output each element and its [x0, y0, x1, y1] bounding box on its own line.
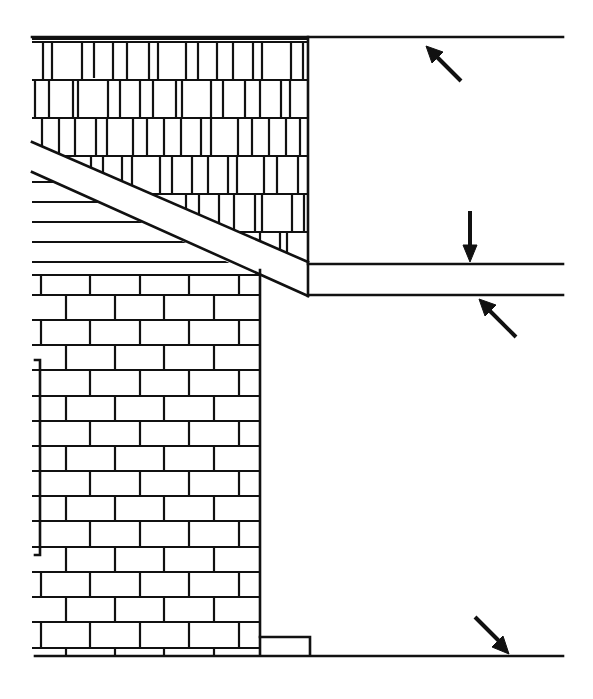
opening-jamb	[35, 360, 40, 555]
shingle-siding	[32, 39, 308, 262]
brick-veneer	[32, 270, 260, 655]
soffit	[308, 264, 563, 295]
arrow-top-line-icon	[426, 46, 461, 81]
wall-elevation-diagram	[0, 0, 593, 699]
arrow-ground-icon	[475, 617, 509, 654]
arrow-soffit-bottom-icon	[479, 299, 516, 337]
base-step	[260, 637, 310, 655]
fascia-rake-board	[32, 142, 308, 296]
arrow-soffit-top-icon	[463, 211, 477, 262]
